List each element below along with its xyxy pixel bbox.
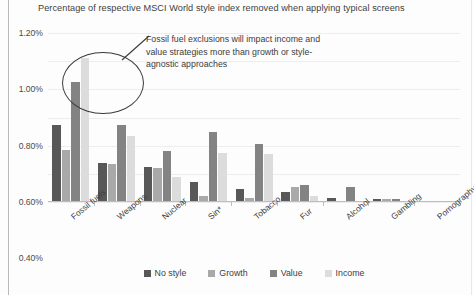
x-axis-category: Fossil fuels [48,205,94,265]
annotation-line-3: agnostic approaches [146,58,364,71]
x-axis-line [48,201,460,202]
legend-label: Growth [219,268,247,278]
bar [255,144,264,202]
legend-label: Income [336,268,365,278]
bar-group [368,33,414,202]
annotation-line-1: Fossil fuel exclusions will impact incom… [146,33,364,46]
bar [117,125,126,202]
bar [108,164,117,202]
x-axis-category: Nuclear [140,205,186,265]
legend-item[interactable]: Growth [208,268,247,278]
chart-legend: No styleGrowthValueIncome [48,268,460,278]
bar [346,187,355,202]
y-axis-tick-label: 0.40% [19,253,43,263]
bar [127,136,136,202]
legend-swatch-icon [325,270,332,277]
gridline: 0.00% [48,202,460,203]
legend-item[interactable]: Value [270,268,303,278]
x-axis-category-label: Fur [298,206,314,222]
y-axis-tick-label: 0.80% [19,141,43,151]
legend-label: No style [155,268,187,278]
x-axis-category: Weapons [94,205,140,265]
x-axis-category: Gambling [368,205,414,265]
x-axis-category: Sin* [185,205,231,265]
legend-label: Value [281,268,303,278]
bar [52,125,61,202]
chart-container: Percentage of respective MSCI World styl… [0,0,474,295]
legend-item[interactable]: No style [144,268,187,278]
bar [264,154,273,202]
frame-left-border [8,0,9,295]
annotation-line-2: value strategies more than growth or sty… [146,46,364,59]
bar [209,132,218,202]
legend-swatch-icon [144,270,151,277]
bar [62,150,71,202]
bar [291,187,300,202]
annotation-highlight-ellipse [62,52,144,114]
y-axis-tick-label: 1.20% [19,28,43,38]
x-axis-category: Tobacco [231,205,277,265]
bar-group [414,33,460,202]
x-axis-category: Pornography [414,205,460,265]
y-axis-tick-label: 1.00% [19,84,43,94]
x-axis-category: Fur [277,205,323,265]
frame-right-border [471,0,472,295]
bar [190,182,199,202]
x-axis-category: Alcohol [323,205,369,265]
bar [163,151,172,202]
chart-title: Percentage of respective MSCI World styl… [38,3,405,13]
x-axis-category-labels: Fossil fuelsWeaponsNuclearSin*TobaccoFur… [48,205,460,265]
bar [218,153,227,202]
legend-item[interactable]: Income [325,268,365,278]
annotation-text: Fossil fuel exclusions will impact incom… [146,33,364,71]
legend-swatch-icon [208,270,215,277]
bar [300,185,309,202]
bar [153,168,162,202]
x-axis-category-label: Sin* [206,204,224,222]
y-axis-tick-label: 0.60% [19,197,43,207]
legend-swatch-icon [270,270,277,277]
